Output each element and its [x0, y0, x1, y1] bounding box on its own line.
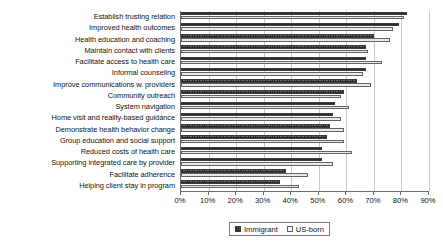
bar-immigrant — [181, 113, 333, 117]
x-axis-tick — [235, 191, 236, 195]
category-label: Establish trusting relation — [0, 11, 178, 22]
bar-us-born — [181, 50, 368, 54]
category-label: Health education and coaching — [0, 34, 178, 45]
bar-us-born — [181, 72, 363, 76]
bar-immigrant — [181, 135, 327, 139]
category-label: Informal counseling — [0, 67, 178, 78]
x-axis-tick-label: 70% — [365, 196, 380, 206]
bar-us-born — [181, 61, 382, 65]
grouped-bar-chart: Establish trusting relationImproved heal… — [0, 0, 443, 245]
x-axis-tick — [290, 191, 291, 195]
chart-legend: Immigrant US-born — [229, 222, 330, 236]
legend-label-us-born: US-born — [296, 225, 324, 234]
category-label: Maintain contact with clients — [0, 45, 178, 56]
bar-us-born — [181, 38, 390, 42]
x-axis-tick — [263, 191, 264, 195]
bar-group — [181, 135, 429, 146]
category-label: Group education and social support — [0, 135, 178, 146]
bar-group — [181, 45, 429, 56]
x-axis-tick — [208, 191, 209, 195]
bar-immigrant — [181, 57, 366, 61]
x-axis-tick-label: 90% — [420, 196, 435, 206]
x-axis-line — [180, 191, 429, 192]
category-label: Supporting integrated care by provider — [0, 157, 178, 168]
bar-us-born — [181, 151, 352, 155]
bar-group — [181, 90, 429, 101]
x-axis-tick-label: 40% — [283, 196, 298, 206]
bar-us-born — [181, 83, 371, 87]
bar-group — [181, 124, 429, 135]
bar-group — [181, 11, 429, 22]
bar-group — [181, 22, 429, 33]
bar-group — [181, 56, 429, 67]
category-label: Facilitate access to health care — [0, 56, 178, 67]
category-label: Demonstrate health behavior change — [0, 124, 178, 135]
bar-immigrant — [181, 79, 357, 83]
category-axis-labels: Establish trusting relationImproved heal… — [0, 11, 178, 191]
bar-group — [181, 157, 429, 168]
x-axis-tick — [373, 191, 374, 195]
category-label: Community outreach — [0, 90, 178, 101]
x-axis-tick-label: 80% — [393, 196, 408, 206]
legend-swatch-us-born-icon — [287, 226, 293, 232]
bar-group — [181, 67, 429, 78]
bar-us-born — [181, 140, 344, 144]
bar-series-container — [181, 11, 429, 191]
bar-immigrant — [181, 90, 344, 94]
bar-us-born — [181, 162, 333, 166]
bar-us-born — [181, 16, 404, 20]
legend-entry-immigrant: Immigrant — [235, 225, 278, 234]
bar-us-born — [181, 27, 393, 31]
x-axis-tick — [400, 191, 401, 195]
bar-group — [181, 34, 429, 45]
x-axis-tick-label: 0% — [175, 196, 186, 206]
bar-us-born — [181, 106, 349, 110]
bar-group — [181, 146, 429, 157]
x-axis-tick-label: 50% — [310, 196, 325, 206]
bar-us-born — [181, 185, 299, 189]
bar-immigrant — [181, 12, 407, 16]
bar-immigrant — [181, 124, 330, 128]
bar-group — [181, 169, 429, 180]
bar-us-born — [181, 117, 341, 121]
x-axis-tick — [318, 191, 319, 195]
x-axis-tick-label: 30% — [255, 196, 270, 206]
plot-area — [180, 11, 429, 191]
x-axis-tick-labels: 0%10%20%30%40%50%60%70%80%90% — [180, 196, 429, 208]
category-label: Improved health outcomes — [0, 22, 178, 33]
legend-swatch-immigrant-icon — [235, 226, 241, 232]
category-label: Improve communications w. providers — [0, 79, 178, 90]
bar-immigrant — [181, 180, 280, 184]
bar-immigrant — [181, 147, 322, 151]
x-axis-tick-label: 60% — [338, 196, 353, 206]
x-axis-tick — [180, 191, 181, 195]
x-axis-tick — [428, 191, 429, 195]
bar-us-born — [181, 173, 308, 177]
bar-us-born — [181, 95, 341, 99]
bar-group — [181, 79, 429, 90]
bar-immigrant — [181, 23, 399, 27]
bar-group — [181, 101, 429, 112]
bar-immigrant — [181, 45, 366, 49]
bar-group — [181, 180, 429, 191]
x-axis-tick — [345, 191, 346, 195]
category-label: Helping client stay in program — [0, 180, 178, 191]
category-label: System navigation — [0, 101, 178, 112]
bar-immigrant — [181, 158, 322, 162]
bar-immigrant — [181, 68, 366, 72]
bar-immigrant — [181, 102, 335, 106]
category-label: Facilitate adherence — [0, 169, 178, 180]
bar-us-born — [181, 128, 344, 132]
gridline — [429, 11, 430, 191]
category-label: Reduced costs of health care — [0, 146, 178, 157]
category-label: Home visit and reality-based guidance — [0, 112, 178, 123]
x-axis-tick-label: 20% — [228, 196, 243, 206]
x-axis-tick-label: 10% — [200, 196, 215, 206]
legend-entry-us-born: US-born — [287, 225, 324, 234]
bar-immigrant — [181, 34, 374, 38]
bar-group — [181, 112, 429, 123]
bar-immigrant — [181, 169, 286, 173]
legend-label-immigrant: Immigrant — [244, 225, 278, 234]
